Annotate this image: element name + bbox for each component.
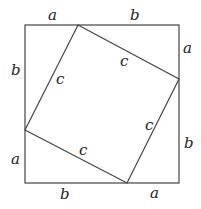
label-inner-left-c: c <box>56 70 65 88</box>
label-left-a: a <box>11 150 20 168</box>
label-right-a: a <box>183 39 192 57</box>
label-right-b: b <box>184 134 194 152</box>
label-top-b: b <box>130 6 140 24</box>
label-bottom-a: a <box>150 184 159 202</box>
label-inner-top-c: c <box>120 52 129 70</box>
label-top-a: a <box>48 6 57 24</box>
label-inner-bottom-c: c <box>79 141 88 159</box>
label-bottom-b: b <box>60 185 70 203</box>
outer-square <box>25 25 179 183</box>
label-left-b: b <box>11 61 21 79</box>
inner-square <box>25 25 179 183</box>
pythagorean-diagram: a b a b a b a b c c c c <box>0 0 201 209</box>
label-inner-right-c: c <box>145 116 154 134</box>
